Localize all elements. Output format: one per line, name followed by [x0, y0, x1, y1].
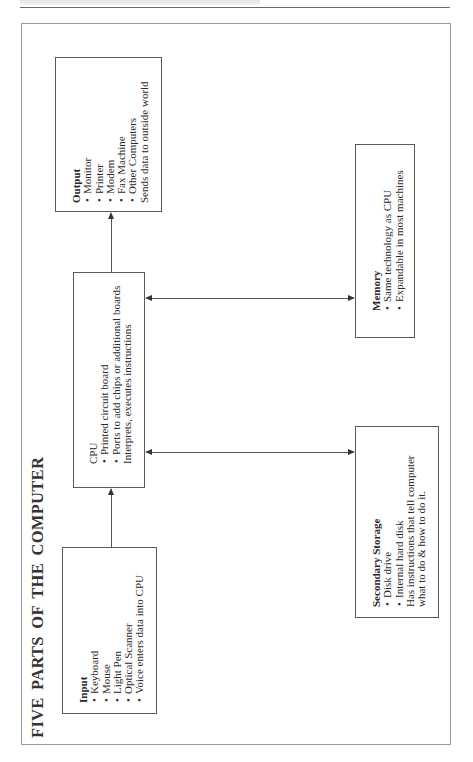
connector-cpu-memory — [151, 298, 349, 299]
arrowhead-up-icon — [108, 212, 114, 219]
cpu-list: Printed circuit board Ports to add chips… — [99, 273, 133, 464]
secondary-storage-list: Disk drive Internal hard disk Has instru… — [382, 427, 427, 607]
list-item: Keyboard — [89, 548, 100, 703]
connector-cpu-storage — [151, 452, 349, 453]
memory-list: Same technology as CPU Expandable in mos… — [382, 145, 405, 311]
list-item: Sends data to outside world — [139, 58, 150, 203]
arrowhead-right-icon — [348, 295, 355, 301]
cpu-box: CPU Printed circuit board Ports to add c… — [73, 272, 145, 488]
arrowhead-right-icon — [348, 449, 355, 455]
connector-input-cpu — [111, 494, 112, 547]
list-item: Voice enters data into CPU — [134, 548, 145, 703]
header-rule — [20, 7, 450, 8]
list-item: Expandable in most machines — [394, 145, 405, 311]
input-box: Input Keyboard Mouse Light Pen Optical S… — [62, 547, 157, 714]
diagram-title: FIVE PARTS OF THE COMPUTER — [28, 457, 48, 738]
list-item: Interprets, executes instructions — [122, 273, 133, 464]
secondary-storage-box: Secondary Storage Disk drive Internal ha… — [355, 426, 439, 618]
output-box: Output Monitor Printer Modem Fax Machine… — [55, 57, 162, 212]
input-list: Keyboard Mouse Light Pen Optical Scanner… — [89, 548, 145, 703]
arrowhead-up-icon — [108, 488, 114, 495]
list-item: Disk drive — [382, 427, 393, 607]
memory-box: Memory Same technology as CPU Expandable… — [355, 144, 415, 338]
arrowhead-left-icon — [145, 449, 152, 455]
arrowhead-left-icon — [145, 295, 152, 301]
list-item: what to do & how to do it. — [416, 427, 427, 607]
output-list: Monitor Printer Modem Fax Machine Other … — [82, 58, 150, 203]
list-item: Same technology as CPU — [382, 145, 393, 311]
list-item: Printed circuit board — [99, 273, 110, 464]
list-item: Monitor — [82, 58, 93, 203]
connector-cpu-output — [111, 218, 112, 272]
cropped-page-header — [20, 0, 260, 5]
